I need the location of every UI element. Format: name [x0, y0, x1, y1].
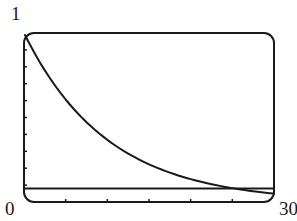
- x-axis-max-label: 30: [279, 199, 297, 218]
- y-axis-max-label: 1: [11, 4, 21, 23]
- plot-frame: [24, 33, 274, 202]
- chart: 1 0 30: [0, 0, 297, 221]
- x-axis-min-label: 0: [5, 199, 15, 218]
- plot-area: [0, 0, 297, 221]
- decay-curve: [25, 35, 274, 194]
